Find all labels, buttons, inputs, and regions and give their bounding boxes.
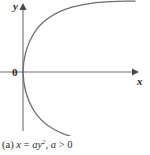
y-axis-arrow-icon	[19, 3, 26, 10]
parabola-lower-branch	[23, 72, 135, 136]
plot-area: y x 0	[0, 0, 150, 136]
caption-index: (a)	[2, 139, 14, 150]
origin-label: 0	[12, 67, 18, 78]
x-axis-label: x	[137, 76, 143, 87]
parabola-upper-branch	[23, 1, 135, 72]
y-axis-label: y	[13, 1, 18, 12]
parabola-figure: y x 0 (a) x = ay2, a > 0	[0, 0, 150, 155]
caption-condition-value: 0	[67, 139, 72, 150]
plot-svg	[0, 0, 150, 136]
figure-caption: (a) x = ay2, a > 0	[2, 139, 150, 151]
